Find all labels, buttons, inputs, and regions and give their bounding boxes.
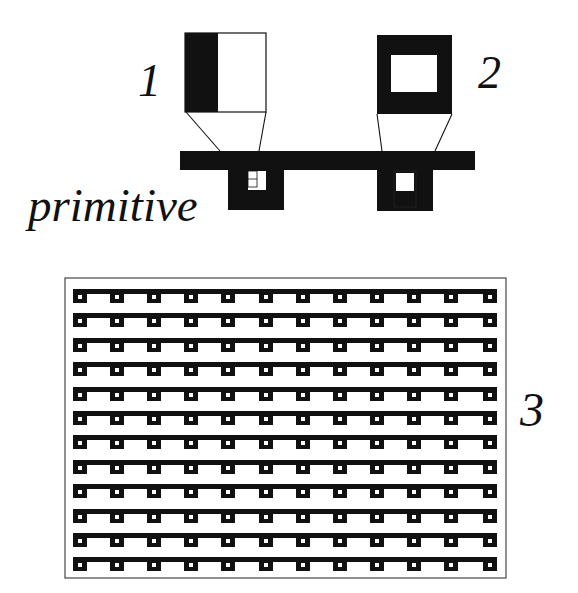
array-cell-hole	[488, 344, 492, 348]
array-cell-hole	[301, 368, 305, 372]
array-cell-hole	[375, 344, 379, 348]
array-cell-hole	[488, 539, 492, 543]
array-cell-hole	[78, 539, 82, 543]
array-cell-hole	[412, 368, 416, 372]
array-cell-hole	[189, 441, 193, 445]
array-cell-hole	[488, 490, 492, 494]
array-cell-hole	[115, 539, 119, 543]
array-cell-hole	[375, 319, 379, 323]
array-row-bar	[73, 460, 497, 465]
pattern-2-inner	[391, 55, 437, 92]
array-cell-hole	[338, 490, 342, 494]
projection-line-4	[435, 114, 452, 151]
array-cell-hole	[412, 466, 416, 470]
array-cell-hole	[78, 563, 82, 567]
array-cell-hole	[375, 515, 379, 519]
array-cell-hole	[78, 490, 82, 494]
array-cell-hole	[78, 344, 82, 348]
array-cell-hole	[301, 441, 305, 445]
array-cell-hole	[488, 319, 492, 323]
array-cell-hole	[488, 393, 492, 397]
label-2: 2	[478, 50, 501, 96]
array-cell-hole	[488, 441, 492, 445]
array-cell-hole	[189, 368, 193, 372]
array-cell-hole	[152, 417, 156, 421]
projection-line-1	[186, 112, 220, 151]
array-cell-hole	[264, 441, 268, 445]
array-row	[73, 557, 497, 571]
array-cell-hole	[301, 417, 305, 421]
array-cell-hole	[375, 539, 379, 543]
array-cell-hole	[152, 344, 156, 348]
array-cell-hole	[449, 368, 453, 372]
array-cell-hole	[375, 417, 379, 421]
array-cell-hole	[78, 393, 82, 397]
array-cell-hole	[264, 393, 268, 397]
array-cell-hole	[152, 368, 156, 372]
array-cell-hole	[189, 344, 193, 348]
array-cell-hole	[449, 344, 453, 348]
array-row	[73, 411, 497, 425]
array-cell-hole	[264, 344, 268, 348]
array-cell-hole	[488, 563, 492, 567]
array-cell-hole	[412, 563, 416, 567]
array-cell-hole	[78, 515, 82, 519]
array-cell-hole	[115, 344, 119, 348]
array-cell-hole	[449, 539, 453, 543]
array-cell-hole	[301, 515, 305, 519]
pattern-2-box	[377, 35, 452, 114]
label-primitive: primitive	[28, 182, 198, 229]
array-cell-hole	[115, 295, 119, 299]
array-cell-hole	[115, 490, 119, 494]
array-row-bar	[73, 435, 497, 440]
array-3-pattern	[65, 278, 506, 578]
projection-line-3	[377, 114, 382, 151]
array-row	[73, 533, 497, 547]
label-1: 1	[138, 58, 161, 104]
array-row	[73, 435, 497, 449]
array-cell-hole	[115, 393, 119, 397]
array-cell-hole	[115, 319, 119, 323]
array-cell-hole	[226, 368, 230, 372]
array-cell-hole	[264, 295, 268, 299]
array-cell-hole	[115, 515, 119, 519]
array-cell-hole	[264, 490, 268, 494]
array-cell-hole	[301, 344, 305, 348]
array-row-bar	[73, 362, 497, 367]
array-cell-hole	[226, 539, 230, 543]
array-cell-hole	[189, 563, 193, 567]
array-row	[73, 313, 497, 327]
array-cell-hole	[375, 490, 379, 494]
projection-lines	[186, 112, 452, 151]
array-cell-hole	[338, 393, 342, 397]
array-cell-hole	[449, 563, 453, 567]
array-cell-hole	[412, 295, 416, 299]
array-cell-hole	[338, 563, 342, 567]
pattern-1-black-half	[185, 33, 218, 112]
projection-line-2	[259, 112, 266, 151]
array-cell-hole	[152, 490, 156, 494]
array-cell-hole	[338, 295, 342, 299]
array-cell-hole	[78, 417, 82, 421]
array-row-bar	[73, 533, 497, 538]
array-cell-hole	[189, 539, 193, 543]
array-cell-hole	[301, 393, 305, 397]
array-cell-hole	[226, 393, 230, 397]
array-cell-hole	[488, 368, 492, 372]
array-cell-hole	[264, 417, 268, 421]
array-cell-hole	[301, 539, 305, 543]
array-cell-hole	[412, 515, 416, 519]
array-cell-hole	[115, 417, 119, 421]
array-cell-hole	[412, 393, 416, 397]
array-cell-hole	[152, 441, 156, 445]
array-row-bar	[73, 411, 497, 416]
array-cell-hole	[375, 393, 379, 397]
label-3: 3	[520, 386, 544, 434]
array-row	[73, 460, 497, 474]
primitive-bar-rect	[180, 151, 475, 170]
array-cell-hole	[488, 515, 492, 519]
array-cell-hole	[412, 490, 416, 494]
array-cell-hole	[226, 417, 230, 421]
array-cell-hole	[189, 490, 193, 494]
array-cell-hole	[338, 441, 342, 445]
